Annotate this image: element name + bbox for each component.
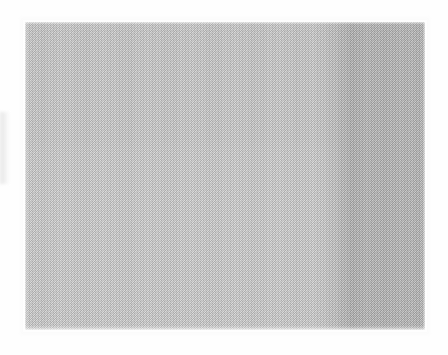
screenshot-canvas <box>0 0 448 355</box>
scanned-grey-panel <box>25 22 425 330</box>
left-edge-smudge-artifact <box>0 112 9 184</box>
halftone-dither-texture-secondary <box>25 22 425 330</box>
